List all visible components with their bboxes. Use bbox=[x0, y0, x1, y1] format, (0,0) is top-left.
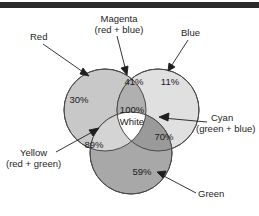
arrowhead-blue bbox=[168, 63, 175, 71]
label-cyan-title: Cyan bbox=[211, 113, 233, 124]
label-yellow-formula: (red + green) bbox=[6, 159, 61, 170]
arrowhead-red bbox=[80, 68, 89, 76]
value-red-only: 30% bbox=[62, 94, 96, 105]
label-magenta-formula: (red + blue) bbox=[77, 25, 161, 36]
leader-line-red bbox=[43, 44, 86, 74]
leader-line-blue bbox=[170, 40, 188, 68]
value-cyan: 70% bbox=[147, 131, 181, 142]
value-white-percent: 100% bbox=[112, 104, 152, 116]
value-green-only: 59% bbox=[125, 166, 159, 177]
value-yellow: 89% bbox=[77, 139, 111, 150]
leader-line-green bbox=[160, 174, 196, 193]
value-magenta: 41% bbox=[117, 76, 151, 87]
label-red: Red bbox=[30, 32, 47, 43]
value-white-label: White bbox=[112, 116, 152, 128]
value-blue-only: 11% bbox=[155, 76, 185, 87]
label-blue: Blue bbox=[181, 28, 200, 39]
label-yellow-title: Yellow bbox=[20, 148, 47, 159]
label-magenta-title: Magenta bbox=[77, 14, 161, 25]
label-green: Green bbox=[198, 189, 224, 200]
venn-diagram-figure: 30% 41% 11% 100% White 89% 70% 59% Red M… bbox=[0, 0, 259, 216]
label-cyan-formula: (green + blue) bbox=[196, 124, 255, 135]
leader-line-magenta bbox=[117, 36, 126, 71]
